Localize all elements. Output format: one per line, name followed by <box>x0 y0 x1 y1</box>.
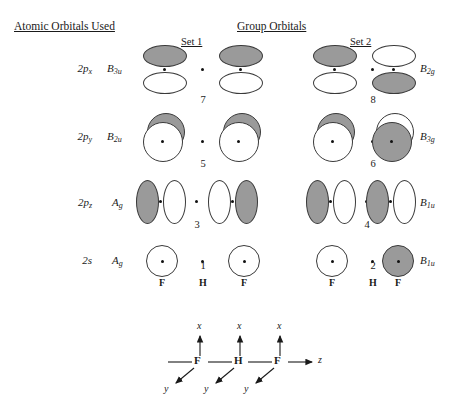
ao-text: 2p <box>77 62 88 74</box>
hydrogen-nucleus-dot <box>201 140 204 143</box>
ao-text: 2s <box>82 254 92 266</box>
ao-subscript: y <box>88 135 92 144</box>
hydrogen-nucleus-dot <box>201 68 204 71</box>
symmetry-label-left-ag-2s: Ag <box>112 254 123 268</box>
fluorine-nucleus-dot <box>161 260 164 263</box>
group-orbital-3-left-pz <box>136 180 186 224</box>
fluorine-nucleus-dot <box>397 260 400 263</box>
px-bottom-lobe-unshaded <box>143 72 187 94</box>
pz-left-lobe-shaded <box>366 180 389 224</box>
sym-subscript: 3g <box>427 135 435 144</box>
ao-text: 2p <box>78 196 89 208</box>
sym-text: B <box>107 130 114 142</box>
group-orbital-4-right-pz <box>366 180 416 224</box>
axis-label-y-1: y <box>164 383 168 394</box>
axis-label-x-3: x <box>277 320 281 331</box>
sym-subscript: 1u <box>427 201 435 210</box>
group-orbital-3-center-h <box>192 180 202 224</box>
sym-text: B <box>420 254 427 266</box>
fluorine-nucleus-dot <box>159 200 162 203</box>
axis-label-x-1: x <box>197 320 201 331</box>
group-orbital-6-left-py <box>313 113 361 163</box>
pz-right-lobe-unshaded <box>393 180 416 224</box>
atom-label-f-right-set2: F <box>383 277 413 288</box>
atom-label-f-left-set1: F <box>147 277 177 288</box>
group-orbital-7-right-px <box>219 45 263 95</box>
group-orbital-1-left-s <box>146 245 178 277</box>
fluorine-nucleus-dot <box>163 68 166 71</box>
axis-atom-h: H <box>234 354 243 366</box>
axis-atom-f-right: F <box>274 354 281 366</box>
sym-text: B <box>420 62 427 74</box>
atomic-orbital-label-2px: 2px <box>52 62 92 76</box>
sym-text: A <box>112 254 119 266</box>
ao-subscript: x <box>88 67 92 76</box>
sym-subscript: 1u <box>427 259 435 268</box>
px-bottom-lobe-shaded <box>372 72 416 94</box>
px-top-lobe-shaded <box>219 45 263 67</box>
symmetry-label-right-b3g: B3g <box>420 130 435 144</box>
symmetry-label-left-b2u: B2u <box>107 130 122 144</box>
sym-subscript: g <box>119 259 123 268</box>
symmetry-label-right-b1u: B1u <box>420 196 435 210</box>
group-orbital-6-right-py <box>372 113 420 163</box>
fluorine-nucleus-dot <box>333 68 336 71</box>
coordinate-axes-diagram: F H F x x x y y y z <box>150 320 350 400</box>
atomic-orbital-label-2s: 2s <box>58 254 92 268</box>
axis-atom-f-left: F <box>194 354 201 366</box>
axis-label-y-3: y <box>244 383 248 394</box>
group-orbital-8-left-px <box>313 45 357 95</box>
atomic-orbital-label-2pz: 2pz <box>52 196 92 210</box>
group-orbital-5-center-h <box>198 113 208 163</box>
hydrogen-nucleus-dot <box>195 200 198 203</box>
axis-label-y-2: y <box>204 383 208 394</box>
fluorine-nucleus-dot <box>390 140 393 143</box>
group-orbital-number-2: 2 <box>358 260 388 271</box>
px-top-lobe-shaded <box>313 45 357 67</box>
group-orbital-1-right-s <box>228 245 260 277</box>
group-orbital-4-left-pz <box>306 180 356 224</box>
group-orbital-7-left-px <box>143 45 187 95</box>
fluorine-nucleus-dot <box>161 140 164 143</box>
group-orbital-5-left-py <box>143 113 191 163</box>
group-orbital-number-7: 7 <box>188 94 218 105</box>
sym-text: B <box>107 62 114 74</box>
sym-subscript: 2g <box>427 67 435 76</box>
fluorine-nucleus-dot <box>331 260 334 263</box>
group-orbital-number-8: 8 <box>358 94 388 105</box>
atom-label-f-left-set2: F <box>317 277 347 288</box>
group-orbital-5-right-py <box>219 113 267 163</box>
atom-label-h-set1: H <box>188 277 218 288</box>
group-orbital-number-1: 1 <box>188 260 218 271</box>
header-atomic-orbitals-used: Atomic Orbitals Used <box>14 20 115 32</box>
sym-subscript: g <box>119 201 123 210</box>
pz-right-lobe-unshaded <box>333 180 356 224</box>
atom-label-f-right-set1: F <box>229 277 259 288</box>
sym-subscript: 3u <box>114 67 122 76</box>
fluorine-nucleus-dot <box>392 68 395 71</box>
group-orbital-number-5: 5 <box>188 158 218 169</box>
px-top-lobe-unshaded <box>372 45 416 67</box>
orbital-diagram: Atomic Orbitals Used Group Orbitals Set … <box>0 0 464 405</box>
atomic-orbital-label-2py: 2py <box>52 130 92 144</box>
fluorine-nucleus-dot <box>331 140 334 143</box>
symmetry-label-right-b1u-2s: B1u <box>420 254 435 268</box>
ao-text: 2p <box>77 130 88 142</box>
px-top-lobe-shaded <box>143 45 187 67</box>
group-orbital-number-3: 3 <box>182 219 212 230</box>
px-bottom-lobe-unshaded <box>219 72 263 94</box>
axis-label-x-2: x <box>237 320 241 331</box>
symmetry-label-right-b2g: B2g <box>420 62 435 76</box>
sym-text: B <box>420 130 427 142</box>
fluorine-nucleus-dot <box>243 260 246 263</box>
pz-right-lobe-unshaded <box>163 180 186 224</box>
pz-left-lobe-shaded <box>306 180 329 224</box>
fluorine-nucleus-dot <box>231 200 234 203</box>
axis-label-z: z <box>318 354 322 365</box>
pz-left-lobe-unshaded <box>208 180 231 224</box>
group-orbital-7-center-h <box>198 45 208 95</box>
pz-left-lobe-shaded <box>136 180 159 224</box>
pz-right-lobe-shaded <box>235 180 258 224</box>
ao-subscript: z <box>89 201 92 210</box>
symmetry-label-left-b3u: B3u <box>107 62 122 76</box>
